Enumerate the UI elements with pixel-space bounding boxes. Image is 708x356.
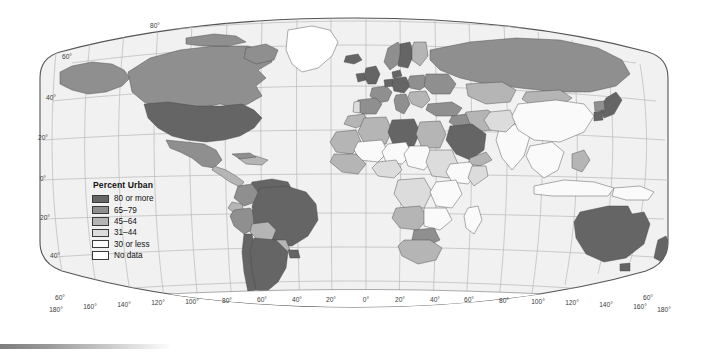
lat-label-40n: 40° <box>46 94 56 101</box>
lon-label-4: 100° <box>185 298 199 305</box>
legend-row-c30: 30 or less <box>92 239 184 250</box>
lon-label-8: 20° <box>326 296 336 303</box>
lon-label-5: 80° <box>222 297 232 304</box>
legend-swatch-c65 <box>92 206 109 214</box>
lon-label-11: 40° <box>430 296 440 303</box>
legend-swatch-cnd <box>92 251 109 259</box>
world-map-svg: 80° 60° 40° 20° 0° 20° 40° 60° 60° 180°1… <box>0 0 708 326</box>
region-uruguay <box>288 250 300 258</box>
lon-label-18: 180° <box>657 306 671 313</box>
region-south-korea <box>594 111 603 121</box>
region-antarctica <box>60 289 652 314</box>
lat-label-40s: 40° <box>50 252 60 259</box>
legend-swatch-c80 <box>92 195 109 203</box>
lon-label-10: 20° <box>395 296 405 303</box>
lon-label-2: 140° <box>117 301 131 308</box>
legend-row-c45: 45–64 <box>92 216 184 227</box>
legend-row-cnd: No data <box>92 250 184 261</box>
lat-label-20n: 20° <box>38 134 48 141</box>
lat-label-80n: 80° <box>150 22 160 29</box>
lon-label-16: 140° <box>599 301 613 308</box>
lat-label-20s: 20° <box>40 214 50 221</box>
lon-label-13: 80° <box>499 297 509 304</box>
region-tasmania <box>620 263 630 271</box>
legend-title: Percent Urban <box>93 180 184 190</box>
lon-label-1: 160° <box>83 303 97 310</box>
lon-label-3: 120° <box>151 299 165 306</box>
map-legend: Percent Urban 80 or more65–7945–6431–443… <box>92 180 184 261</box>
lon-label-12: 60° <box>464 296 474 303</box>
legend-label-c65: 65–79 <box>114 206 137 215</box>
region-north-korea <box>594 101 605 111</box>
legend-label-c80: 80 or more <box>114 194 154 203</box>
lat-label-0: 0° <box>40 175 47 182</box>
legend-label-c31: 31–44 <box>114 228 137 237</box>
lon-label-9: 0° <box>363 296 370 303</box>
lon-label-15: 120° <box>565 299 579 306</box>
lat-label-60n: 60° <box>62 53 72 60</box>
legend-swatch-c45 <box>92 217 109 225</box>
lon-label-17: 160° <box>633 303 647 310</box>
legend-swatch-c30 <box>92 240 109 248</box>
lat-label-60s-right: 60° <box>643 294 653 301</box>
lon-label-6: 60° <box>257 296 267 303</box>
footer-gradient-bar <box>0 344 172 349</box>
legend-label-c30: 30 or less <box>114 240 150 249</box>
lon-label-14: 100° <box>531 298 545 305</box>
region-egypt <box>416 121 446 148</box>
region-portugal <box>353 101 360 113</box>
lat-label-60s-left: 60° <box>55 294 65 301</box>
legend-row-c80: 80 or more <box>92 193 184 204</box>
legend-swatch-c31 <box>92 229 109 237</box>
legend-label-c45: 45–64 <box>114 217 137 226</box>
map-page: 80° 60° 40° 20° 0° 20° 40° 60° 60° 180°1… <box>0 0 708 356</box>
legend-rows: 80 or more65–7945–6431–4430 or lessNo da… <box>92 193 184 261</box>
lon-label-0: 180° <box>49 306 63 313</box>
world-map-figure: 80° 60° 40° 20° 0° 20° 40° 60° 60° 180°1… <box>0 0 708 326</box>
legend-row-c65: 65–79 <box>92 204 184 215</box>
lon-label-7: 40° <box>292 296 302 303</box>
legend-label-cnd: No data <box>114 251 143 260</box>
legend-row-c31: 31–44 <box>92 227 184 238</box>
